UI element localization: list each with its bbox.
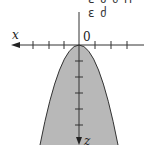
origin-label: 0 — [83, 30, 91, 44]
x-axis-label: x — [12, 28, 19, 42]
vertical-axis-label: z — [84, 134, 90, 145]
parabola-diagram — [0, 0, 144, 145]
left-arrow-icon — [11, 42, 20, 48]
